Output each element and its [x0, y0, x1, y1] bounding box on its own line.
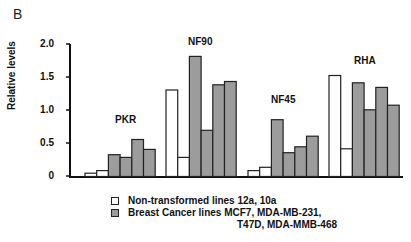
bar-nf90-t47d: [213, 85, 225, 177]
bar-rha-10a: [341, 149, 353, 177]
bar-nf90-mda-mb-231: [201, 130, 213, 176]
bar-pkr-12a: [85, 173, 97, 176]
group-label-nf45: NF45: [271, 94, 295, 105]
group-label-pkr: PKR: [115, 114, 136, 125]
bar-nf90-mcf7: [189, 56, 201, 176]
legend-swatch-white: [111, 197, 119, 205]
bar-nf45-mcf7: [271, 120, 283, 177]
legend-label: Breast Cancer lines MCF7, MDA-MB-231,: [128, 207, 321, 219]
bar-nf45-10a: [260, 167, 272, 176]
bar-rha-12a: [329, 76, 341, 177]
bar-rha-t47d: [376, 87, 388, 176]
bar-rha-mda-mb-231: [364, 110, 376, 177]
bar-pkr-mcf7: [108, 155, 120, 177]
bar-nf90-10a: [178, 157, 190, 176]
bar-pkr-mda-mmb-468: [144, 149, 156, 176]
legend-swatch-gray: [111, 209, 119, 217]
bar-rha-mcf7: [352, 83, 364, 177]
legend-label: Non-transformed lines 12a, 10a: [128, 195, 276, 207]
bar-rha-mda-mmb-468: [388, 105, 400, 176]
bar-pkr-10a: [97, 171, 109, 177]
bar-pkr-mda-mb-231: [120, 157, 132, 176]
legend-label-continued: T47D, MDA-MMB-468: [237, 219, 337, 231]
group-label-rha: RHA: [354, 55, 376, 66]
group-label-nf90: NF90: [188, 36, 212, 47]
bar-nf45-mda-mmb-468: [307, 136, 319, 176]
bar-pkr-t47d: [132, 140, 144, 177]
bar-nf45-mda-mb-231: [283, 153, 295, 177]
bar-nf90-12a: [166, 90, 178, 177]
bar-nf90-mda-mmb-468: [225, 82, 237, 177]
bar-nf45-12a: [248, 171, 260, 177]
bar-nf45-t47d: [295, 147, 307, 177]
